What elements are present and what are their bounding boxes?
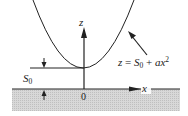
origin-label: 0 bbox=[81, 91, 86, 102]
height-label: S0 bbox=[23, 72, 33, 86]
curve-equation: z = S0 + ax2 bbox=[117, 55, 169, 70]
curve-pointer-line bbox=[131, 35, 147, 55]
z-axis-arrow-icon bbox=[81, 27, 87, 38]
ground-surface bbox=[12, 89, 180, 111]
x-axis-label: x bbox=[141, 82, 147, 94]
diagram-canvas: x z 0 S0 z = S0 + ax2 bbox=[0, 0, 188, 116]
z-axis-label: z bbox=[78, 16, 84, 28]
down-arrow-icon bbox=[42, 62, 47, 68]
curve-pointer-arrow-icon bbox=[128, 31, 136, 39]
